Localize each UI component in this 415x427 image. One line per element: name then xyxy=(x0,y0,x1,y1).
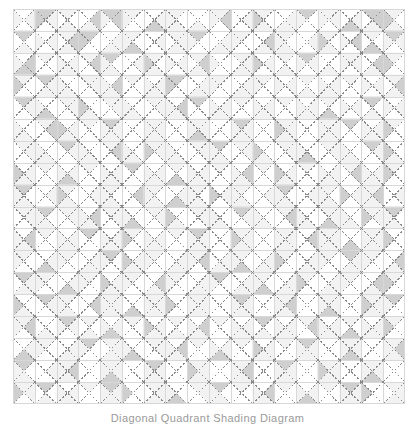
figure-container: Diagonal Quadrant Shading Diagram xyxy=(0,0,415,427)
figure-caption: Diagonal Quadrant Shading Diagram xyxy=(0,409,415,427)
diagonal-quadrant-grid xyxy=(13,9,405,404)
grid-svg xyxy=(13,9,405,404)
